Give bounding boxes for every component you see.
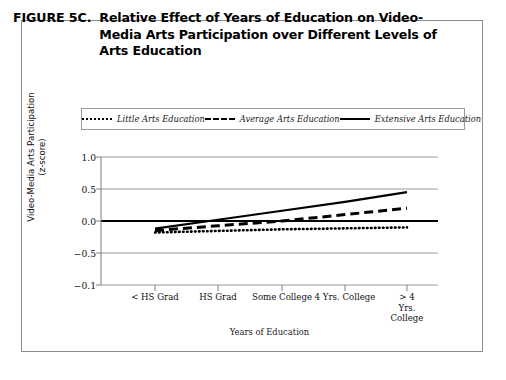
x-axis-title: Years of Education (101, 327, 438, 337)
legend-item-average[interactable]: Average Arts Education (205, 114, 340, 124)
legend-label-extensive: Extensive Arts Education (375, 114, 481, 124)
y-axis-title-line2: (z-score) (37, 77, 51, 237)
y-tick-label: 0.5 (81, 184, 96, 195)
y-tick-label: 1.0 (81, 152, 96, 163)
figure-title-text: Relative Effect of Years of Education on… (99, 10, 449, 60)
x-axis-tick-labels: < HS GradHS GradSome College4 Yrs. Colle… (101, 292, 438, 326)
x-tick-label: < HS Grad (131, 292, 179, 303)
legend-label-average: Average Arts Education (240, 114, 340, 124)
x-tick-label: HS Grad (199, 292, 237, 303)
legend-label-little: Little Arts Education (117, 114, 205, 124)
legend-swatch-dotted-icon (82, 115, 112, 124)
series-line-dotted (155, 227, 407, 232)
y-tick-label: −0.5 (74, 248, 96, 259)
chart-svg (101, 157, 438, 285)
figure-title-block: FIGURE 5C. Relative Effect of Years of E… (13, 10, 449, 60)
y-axis-tick-labels: 1.00.50.0−0.5−0.1 (56, 157, 96, 285)
series-lines (155, 192, 407, 232)
legend-swatch-solid-icon (340, 115, 370, 124)
x-tick-label: 4 Yrs. College (315, 292, 376, 303)
y-tick-label: −0.1 (74, 280, 96, 291)
chart-legend: Little Arts Education Average Arts Educa… (81, 108, 465, 130)
plot-area (101, 157, 438, 285)
figure-number-label: FIGURE 5C. (13, 10, 99, 27)
legend-item-little[interactable]: Little Arts Education (82, 114, 205, 124)
y-tick-label: 0.0 (81, 216, 96, 227)
x-tick-label: Some College (252, 292, 312, 303)
legend-swatch-dashed-icon (205, 115, 235, 124)
axis-frame (96, 157, 407, 291)
series-line-solid (155, 192, 407, 228)
x-tick-label: > 4 Yrs. College (391, 292, 424, 324)
legend-item-extensive[interactable]: Extensive Arts Education (340, 114, 481, 124)
